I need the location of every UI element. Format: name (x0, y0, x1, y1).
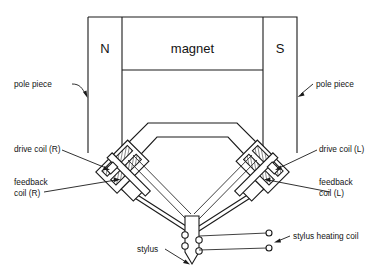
leader-feedback-coil-right (44, 180, 116, 192)
label-stylus-heating-coil: stylus heating coil (293, 231, 359, 241)
figure-canvas: magnet N S (0, 0, 387, 272)
leader-stylus (165, 249, 186, 262)
leader-drive-coil-left (279, 150, 317, 168)
label-drive-coil-right: drive coil (R) (14, 144, 61, 154)
arrowhead-stylus (183, 260, 190, 265)
label-pole-piece-right: pole piece (316, 79, 354, 89)
arrowhead-stylus-heating-coil (274, 239, 281, 243)
label-feedback-coil-right-line2: coil (R) (14, 188, 41, 198)
south-pole-label: S (276, 41, 285, 56)
magnet-assembly: magnet N S (88, 17, 297, 153)
label-stylus: stylus (137, 244, 158, 254)
label-feedback-coil-left-line2: coil (L) (319, 188, 344, 198)
diagram-svg: magnet N S (0, 0, 387, 272)
label-feedback-coil-right-line1: feedback (14, 177, 49, 187)
leader-pole-piece-left (72, 84, 86, 95)
magnet-outer-frame (88, 17, 297, 153)
label-pole-piece-left: pole piece (14, 79, 52, 89)
arrowhead-pole-piece-right (298, 92, 305, 97)
leader-drive-coil-right (62, 150, 106, 168)
magnet-label: magnet (171, 41, 215, 56)
stylus-assembly (182, 216, 272, 264)
label-feedback-coil-left-line1: feedback (319, 177, 354, 187)
north-pole-label: N (100, 41, 109, 56)
label-drive-coil-left: drive coil (L) (319, 144, 364, 154)
